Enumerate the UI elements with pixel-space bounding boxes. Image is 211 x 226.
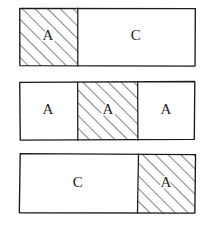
partition-cell[interactable]: A xyxy=(138,82,195,140)
partition-cell[interactable]: AA xyxy=(137,154,195,213)
partition-diagram: AACAAAACAA xyxy=(0,0,211,226)
cell-label: C xyxy=(73,174,83,190)
cell-label: A xyxy=(160,174,171,190)
cell-label: A xyxy=(42,101,53,117)
cell-label: A xyxy=(42,27,53,43)
cell-label: A xyxy=(102,101,113,117)
bar-row: CAA xyxy=(19,154,195,213)
bar-row: AAAA xyxy=(20,82,195,141)
diagram-canvas: AACAAAACAA xyxy=(0,0,211,226)
bar-row: AAC xyxy=(20,8,196,66)
partition-cell[interactable]: C xyxy=(78,8,195,66)
partition-cell[interactable]: AA xyxy=(20,8,78,66)
cell-label: A xyxy=(160,101,171,117)
partition-cell[interactable]: AA xyxy=(78,82,138,140)
partition-cell[interactable]: A xyxy=(20,82,78,140)
cell-label: C xyxy=(131,27,141,43)
partition-cell[interactable]: C xyxy=(20,154,138,213)
